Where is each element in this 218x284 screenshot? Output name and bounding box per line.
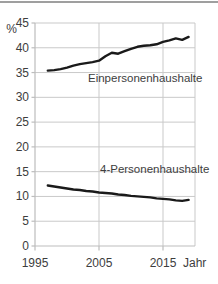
y-axis-unit-label: % <box>6 22 17 36</box>
x-axis-title: Jahr <box>183 256 206 270</box>
data-lines <box>48 37 189 201</box>
x-tick-label: 1995 <box>22 256 49 270</box>
y-axis-tick-labels: 051015202530354045 <box>16 16 30 253</box>
y-tick-label: 45 <box>16 16 30 30</box>
y-tick-label: 35 <box>16 66 30 80</box>
y-tick-label: 40 <box>16 41 30 55</box>
data-line-4-personenhaushalte <box>48 186 189 201</box>
chart-figure: 051015202530354045 199520052015 % Jahr E… <box>0 0 218 284</box>
gridlines <box>35 23 195 246</box>
x-axis-tick-labels: 199520052015 <box>22 256 177 270</box>
y-tick-label: 25 <box>16 115 30 129</box>
axes <box>32 23 196 251</box>
data-line-einpersonenhaushalte <box>48 37 189 71</box>
x-tick-label: 2015 <box>150 256 177 270</box>
y-tick-label: 15 <box>16 165 30 179</box>
y-tick-label: 5 <box>22 214 29 228</box>
y-tick-label: 20 <box>16 140 30 154</box>
line-chart: 051015202530354045 199520052015 % Jahr E… <box>0 0 218 284</box>
y-tick-label: 0 <box>22 239 29 253</box>
series-label-einpersonenhaushalte: Einpersonenhaushalte <box>88 72 202 84</box>
x-tick-label: 2005 <box>86 256 113 270</box>
y-tick-label: 30 <box>16 90 30 104</box>
y-tick-label: 10 <box>16 189 30 203</box>
series-label-4-personenhaushalte: 4-Personenhaushalte <box>100 163 209 175</box>
